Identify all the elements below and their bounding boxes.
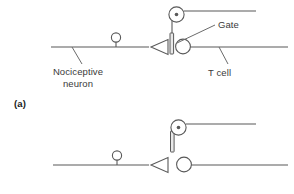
- gate-control-theory-figure: Nociceptive neuron T cell Gate (a): [0, 0, 294, 194]
- receptor-circle-upper: [111, 33, 120, 42]
- leader-line-nociceptive: [72, 47, 82, 64]
- label-gate: Gate: [218, 19, 239, 31]
- synapse-triangle-lower: [151, 158, 168, 173]
- label-nociceptive-neuron: Nociceptive neuron: [38, 66, 118, 89]
- label-t-cell: T cell: [208, 67, 231, 79]
- label-nociceptive-neuron-line1: Nociceptive: [38, 66, 118, 78]
- t-cell-body-lower: [177, 157, 192, 172]
- diagram-gate-closed: [51, 7, 288, 64]
- interneuron-soma-dot-upper: [175, 13, 179, 17]
- panel-label-a: (a): [14, 98, 26, 110]
- gate-bar-open: [171, 131, 175, 152]
- synapse-triangle-upper: [151, 40, 168, 55]
- interneuron-soma-dot-lower: [177, 126, 181, 130]
- diagram-canvas: [0, 0, 294, 194]
- leader-line-gate: [177, 25, 215, 43]
- label-nociceptive-neuron-line2: neuron: [38, 78, 118, 90]
- leader-line-tcell: [219, 47, 228, 64]
- receptor-circle-lower: [112, 151, 121, 160]
- t-cell-body-upper: [176, 39, 191, 54]
- gate-bar-closed: [170, 33, 174, 54]
- diagram-gate-open: [53, 120, 288, 173]
